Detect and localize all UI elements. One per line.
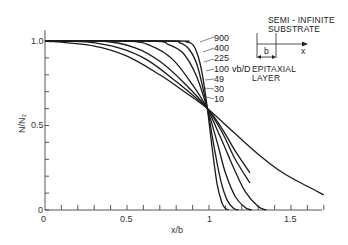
inset-b-arrow-right-icon (272, 55, 276, 59)
x-tick-label-1: 1 (207, 214, 212, 224)
y-ticks (45, 41, 49, 210)
x-tick-label-0: 0 (41, 214, 46, 224)
curve-label-10: 10 (214, 94, 224, 104)
y-tick-label-1: 1.0 (31, 36, 44, 46)
inset-b-arrow-left-icon (257, 55, 261, 59)
y-tick-label-05: 0.5 (31, 120, 44, 130)
inset-b-label: b (264, 46, 269, 56)
y-axis-title: N/N₂ (17, 114, 27, 133)
curve-labels: 900 400 225 100 vb/D 49 30 10 (214, 33, 251, 104)
axes (45, 30, 324, 210)
curve-label-900: 900 (214, 33, 229, 43)
curve-label-30: 30 (214, 84, 224, 94)
curve-leaders (200, 37, 214, 99)
inset-layer-line2: LAYER (252, 73, 280, 83)
curve-vbD-900 (45, 41, 229, 210)
inset-substrate-line2: SUBSTRATE (268, 24, 320, 34)
x-tick-label-05: 0.5 (120, 214, 133, 224)
curve-label-49: 49 (214, 74, 224, 84)
parameter-label: vb/D (232, 64, 251, 74)
curve-label-100: 100 (214, 64, 229, 74)
curve-label-225: 225 (214, 53, 229, 63)
inset-diagram: SEMI - INFINITE SUBSTRATE b x EPITAXIAL … (252, 15, 335, 83)
inset-x-label: x (301, 46, 306, 56)
chart-root: 1.0 0.5 0 0 0.5 1 1.5 N/N₂ x/b 900 400 2… (0, 0, 348, 245)
x-tick-label-15: 1.5 (284, 214, 297, 224)
x-axis-title: x/b (171, 225, 183, 235)
curve-label-400: 400 (214, 43, 229, 53)
x-ticks (61, 205, 323, 210)
